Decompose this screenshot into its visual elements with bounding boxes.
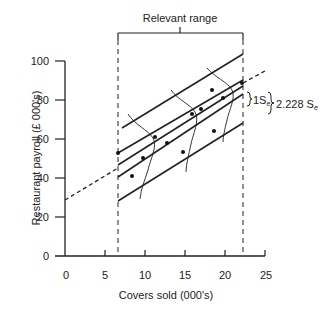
regression-chart: 0 20 40 60 80 100 0 5 10 15 20 25 Covers… <box>0 0 336 312</box>
svg-text:100: 100 <box>31 55 49 67</box>
two-se-label: 2.228 Se <box>276 98 318 111</box>
distribution-curves <box>128 68 233 199</box>
x-ticks <box>105 250 265 256</box>
relevant-range-bracket <box>118 27 243 40</box>
svg-text:0: 0 <box>43 250 49 262</box>
relevant-range-label: Relevant range <box>143 12 218 24</box>
svg-text:25: 25 <box>260 269 272 281</box>
svg-text:20: 20 <box>219 269 231 281</box>
regression-extension-right <box>243 71 265 83</box>
confidence-band-lines <box>118 54 243 201</box>
one-se-label: 1Se <box>253 94 270 107</box>
upper-1se-line <box>118 80 243 153</box>
svg-text:15: 15 <box>179 269 191 281</box>
y-axis-label: Restaurant payroll (£ 000's) <box>30 91 42 226</box>
one-se-brace <box>247 92 252 106</box>
svg-text:5: 5 <box>102 269 108 281</box>
svg-text:10: 10 <box>139 269 151 281</box>
svg-text:0: 0 <box>63 269 69 281</box>
y-ticks <box>55 61 65 217</box>
x-tick-labels: 0 5 10 15 20 25 <box>63 269 272 281</box>
x-axis-label: Covers sold (000's) <box>119 289 213 301</box>
regression-extension-left <box>65 168 118 200</box>
